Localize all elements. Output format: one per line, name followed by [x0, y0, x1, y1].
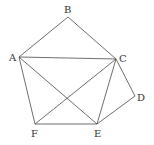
edge-de: [97, 96, 135, 124]
vertex-label-d: D: [137, 92, 145, 103]
edge-bc: [68, 17, 116, 59]
edge-af: [19, 57, 35, 124]
edge-cf: [35, 59, 116, 124]
vertex-label-e: E: [94, 128, 101, 139]
edge-ac: [19, 57, 116, 59]
vertex-label-a: A: [8, 52, 17, 63]
edge-cd: [116, 59, 135, 96]
vertex-label-b: B: [64, 4, 71, 15]
vertex-label-c: C: [119, 53, 127, 64]
geometry-diagram: A B C D E F: [0, 0, 154, 145]
edges-group: [19, 17, 135, 124]
edge-ab: [19, 17, 68, 57]
vertex-label-f: F: [31, 128, 38, 139]
edge-ce: [97, 59, 116, 124]
edge-ae: [19, 57, 97, 124]
